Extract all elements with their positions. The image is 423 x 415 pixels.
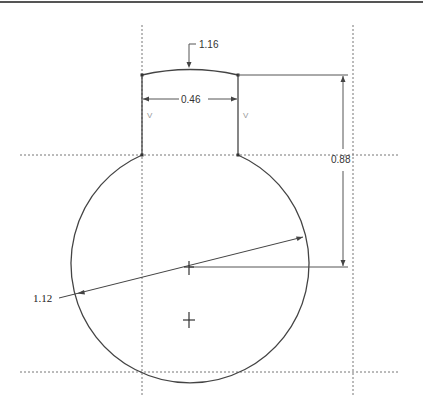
- dim-vertical-offset-value[interactable]: 0.88: [331, 154, 351, 165]
- secondary-point-mark[interactable]: [183, 312, 195, 328]
- dim-neck-width-value[interactable]: 0.46: [181, 94, 201, 105]
- sketch-canvas[interactable]: 1.16 0.46 V V 0.88 1.12: [0, 0, 423, 415]
- dim-vertical-offset[interactable]: [189, 75, 348, 267]
- geometry: [71, 70, 309, 383]
- constraint-vertical-left: V: [147, 111, 153, 120]
- top-arc[interactable]: [142, 70, 238, 76]
- vertices: [141, 74, 240, 157]
- constraint-vertical-right: V: [243, 111, 249, 120]
- dim-arc-radius-value[interactable]: 1.16: [199, 39, 219, 50]
- main-circle-arc[interactable]: [71, 155, 309, 383]
- circle-center-mark[interactable]: [184, 261, 194, 275]
- dim-circle-radius-value[interactable]: 1.12: [33, 292, 52, 304]
- sketch-drawing: 1.16 0.46 V V 0.88 1.12: [0, 0, 423, 415]
